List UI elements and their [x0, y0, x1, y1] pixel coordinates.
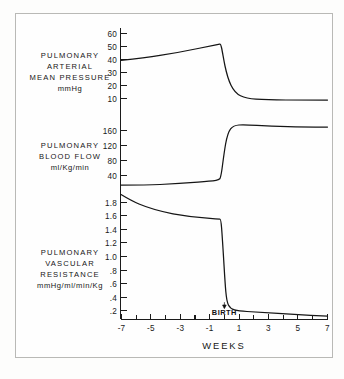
flow-label-unit: ml/Kg/min: [51, 163, 90, 172]
birth-marker: BIRTH: [212, 302, 237, 317]
resistance-label-line-1: PULMONARY: [41, 248, 99, 257]
resistance-ytick-1-2: 1.2: [105, 239, 117, 248]
figure-page: 60 50 40 30 20 10 PULMONARY ARTERIAL MEA…: [0, 0, 344, 379]
flow-ytick-120: 120: [103, 142, 118, 151]
perinatal-pulmonary-hemodynamics-chart: 60 50 40 30 20 10 PULMONARY ARTERIAL MEA…: [16, 14, 332, 357]
resistance-y-ticks: [121, 203, 128, 311]
flow-y-ticks: [121, 131, 128, 176]
panel-pressure: 60 50 40 30 20 10 PULMONARY ARTERIAL MEA…: [30, 30, 328, 104]
panel-flow: 160 120 80 40 PULMONARY BLOOD FLOW ml/Kg…: [39, 125, 328, 185]
pressure-ytick-10: 10: [107, 95, 117, 104]
flow-ytick-40: 40: [107, 172, 117, 181]
pressure-curve: [121, 44, 328, 100]
pressure-ytick-40: 40: [107, 56, 117, 65]
x-axis-title: WEEKS: [202, 340, 245, 351]
flow-label-line-2: BLOOD FLOW: [39, 152, 101, 161]
pressure-label-unit: mmHg: [58, 84, 83, 93]
pressure-ytick-20: 20: [107, 82, 117, 91]
xtick-minus-3: -3: [176, 324, 184, 333]
xtick-1: 1: [237, 324, 242, 333]
resistance-ytick-1-6: 1.6: [105, 212, 117, 221]
pressure-label-line-1: PULMONARY: [41, 51, 99, 60]
resistance-ytick-0-2: .2: [110, 307, 117, 316]
figure-frame: 60 50 40 30 20 10 PULMONARY ARTERIAL MEA…: [15, 13, 333, 358]
pressure-y-ticks: [121, 34, 128, 99]
xtick-3: 3: [266, 324, 271, 333]
xtick-7: 7: [325, 324, 330, 333]
panel-resistance: 1.8 1.6 1.4 1.2 1.0 .8 .6 .4 .2 PULMONAR…: [37, 195, 327, 317]
resistance-ytick-0-8: .8: [110, 267, 117, 276]
resistance-ytick-1-0: 1.0: [105, 253, 117, 262]
flow-ytick-80: 80: [107, 157, 117, 166]
flow-curve: [121, 125, 328, 185]
pressure-label-line-3: MEAN PRESSURE: [30, 73, 111, 82]
resistance-ytick-0-6: .6: [110, 280, 117, 289]
resistance-ytick-1-4: 1.4: [105, 226, 117, 235]
resistance-label-line-3: RESISTANCE: [40, 270, 99, 279]
flow-label-line-1: PULMONARY: [41, 141, 99, 150]
pressure-label-line-2: ARTERIAL: [47, 62, 93, 71]
resistance-ytick-1-8: 1.8: [105, 199, 117, 208]
resistance-ytick-0-4: .4: [110, 294, 117, 303]
pressure-ytick-50: 50: [107, 43, 117, 52]
xtick-minus-7: -7: [118, 324, 126, 333]
birth-label: BIRTH: [212, 308, 237, 317]
resistance-label-line-2: VASCULAR: [45, 259, 95, 268]
resistance-label-unit: mmHg/ml/min/Kg: [37, 281, 103, 290]
resistance-curve: [121, 195, 328, 317]
xtick-minus-1: -1: [206, 324, 214, 333]
xtick-5: 5: [296, 324, 301, 333]
flow-ytick-160: 160: [103, 127, 118, 136]
xtick-minus-5: -5: [147, 324, 155, 333]
pressure-ytick-60: 60: [107, 30, 117, 39]
